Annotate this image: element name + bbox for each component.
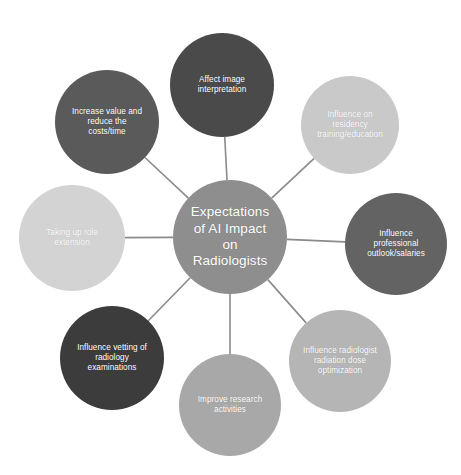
satellite-label-taking-up-role-extension: Taking up role extension <box>38 228 106 248</box>
satellite-label-improve-research-activities: Improve research activities <box>190 395 271 415</box>
satellite-node-influence-professional-outlook[interactable]: Influence professional outlook/salaries <box>345 193 447 295</box>
satellite-node-taking-up-role-extension[interactable]: Taking up role extension <box>19 185 125 291</box>
diagram-canvas: Affect image interpretationInfluence on … <box>0 0 461 475</box>
satellite-label-influence-residency-training: Influence on residency training/educatio… <box>309 110 391 140</box>
satellite-node-influence-radiation-dose[interactable]: Influence radiologist radiation dose opt… <box>289 310 391 412</box>
connector-affect-image-interpretation <box>225 137 227 180</box>
satellite-label-increase-value-reduce-costs: Increase value and reduce the costs/time <box>64 107 150 137</box>
connector-influence-professional-outlook <box>287 239 345 241</box>
satellite-node-improve-research-activities[interactable]: Improve research activities <box>179 354 281 456</box>
satellite-label-influence-radiation-dose: Influence radiologist radiation dose opt… <box>295 346 385 376</box>
satellite-label-affect-image-interpretation: Affect image interpretation <box>190 75 255 95</box>
satellite-label-influence-professional-outlook: Influence professional outlook/salaries <box>359 229 433 259</box>
connector-influence-residency-training <box>272 158 315 198</box>
satellite-node-influence-vetting-examinations[interactable]: Influence vetting of radiology examinati… <box>60 306 164 410</box>
connector-influence-vetting-examinations <box>148 278 190 321</box>
satellite-node-influence-residency-training[interactable]: Influence on residency training/educatio… <box>301 76 399 174</box>
satellite-node-increase-value-reduce-costs[interactable]: Increase value and reduce the costs/time <box>55 70 159 174</box>
hub-node-label: Expectations of AI Impact on Radiologist… <box>181 204 280 270</box>
connector-influence-radiation-dose <box>268 280 306 323</box>
connector-increase-value-reduce-costs <box>145 158 188 199</box>
hub-node[interactable]: Expectations of AI Impact on Radiologist… <box>173 180 287 294</box>
satellite-node-affect-image-interpretation[interactable]: Affect image interpretation <box>170 33 274 137</box>
satellite-label-influence-vetting-examinations: Influence vetting of radiology examinati… <box>69 343 155 373</box>
